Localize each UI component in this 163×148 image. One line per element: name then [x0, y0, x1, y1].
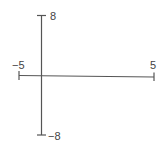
x-min-label: −5 — [12, 59, 25, 71]
x-max-label: 5 — [150, 59, 156, 71]
y-min-label: −8 — [48, 130, 61, 142]
x-axis-line — [19, 76, 154, 78]
x-axis: −5 5 — [12, 59, 156, 81]
coordinate-plane: −5 5 8 −8 — [0, 0, 163, 148]
y-max-label: 8 — [50, 10, 56, 22]
